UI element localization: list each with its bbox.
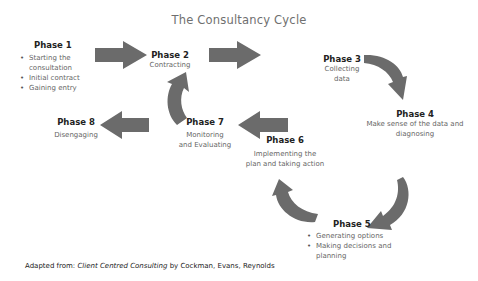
phase-4-label: Phase 4 xyxy=(360,109,470,119)
phase-8-desc: Disengaging xyxy=(48,130,104,140)
phase-1: Phase 1 Starting theconsultation Initial… xyxy=(18,40,98,93)
phase-1-list: Starting theconsultation Initial contrac… xyxy=(18,53,98,93)
phase-7-label: Phase 7 xyxy=(175,117,235,127)
phase-4-desc-line: diagnosing xyxy=(360,129,470,139)
phase-8-label: Phase 8 xyxy=(48,117,104,127)
phase-4: Phase 4 Make sense of the data and diagn… xyxy=(360,109,470,139)
list-item: Generating options xyxy=(305,231,415,241)
phase-3-desc-line: Collecting xyxy=(318,64,366,74)
citation-book-title: Client Centred Consulting xyxy=(77,262,167,270)
phase-1-label: Phase 1 xyxy=(34,40,98,50)
phase-3-label: Phase 3 xyxy=(318,54,366,64)
phase-2-desc: Contracting xyxy=(145,60,195,70)
phase-6-desc-line: Implementing the xyxy=(240,149,330,159)
phase-2-label: Phase 2 xyxy=(145,50,195,60)
phase-3-desc-line: data xyxy=(318,74,366,84)
phase-8: Phase 8 Disengaging xyxy=(48,117,104,140)
phase-7: Phase 7 Monitoring and Evaluating xyxy=(175,117,235,150)
phase-4-desc-line: Make sense of the data and xyxy=(360,119,470,129)
phase-2: Phase 2 Contracting xyxy=(145,50,195,70)
list-item: Gaining entry xyxy=(18,83,98,93)
phase-7-desc-line: and Evaluating xyxy=(175,140,235,150)
citation-prefix: Adapted from: xyxy=(25,262,75,270)
phase-6-desc-line: plan and taking action xyxy=(240,159,330,169)
curved-arrow-down-icon xyxy=(364,55,407,100)
arrow-left-icon xyxy=(100,111,149,139)
phase-5: Phase 5 Generating options Making decisi… xyxy=(305,219,415,261)
phase-7-desc-line: Monitoring xyxy=(175,130,235,140)
phase-6: Phase 6 Implementing the plan and taking… xyxy=(240,135,330,169)
phase-6-label: Phase 6 xyxy=(240,135,330,145)
phase-5-list: Generating options Making decisions andp… xyxy=(305,231,415,261)
citation-authors: by Cockman, Evans, Reynolds xyxy=(170,262,275,270)
source-citation: Adapted from: Client Centred Consulting … xyxy=(25,262,275,270)
list-item: Making decisions andplanning xyxy=(305,241,415,261)
diagram-title: The Consultancy Cycle xyxy=(0,13,478,27)
list-item: Initial contract xyxy=(18,73,98,83)
phase-5-label: Phase 5 xyxy=(333,219,415,229)
list-item: Starting theconsultation xyxy=(18,53,98,73)
curved-arrow-up-left-icon xyxy=(272,179,318,222)
arrow-right-icon xyxy=(95,41,147,69)
phase-3: Phase 3 Collecting data xyxy=(318,54,366,84)
arrow-right-icon xyxy=(209,41,261,69)
